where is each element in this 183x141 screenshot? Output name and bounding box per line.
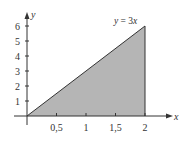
x-tick-label: 2 (143, 122, 148, 133)
x-axis-label: x (173, 111, 179, 122)
y-tick-label: 3 (15, 66, 20, 77)
y-tick-label: 2 (15, 81, 20, 92)
x-tick-label: 1 (84, 122, 89, 133)
y-tick-label: 6 (15, 21, 20, 32)
y-tick-label: 5 (15, 36, 20, 47)
curve-annotation: y = 3x (113, 16, 138, 26)
chart-container: 0,5 1 1,5 2 1 2 3 4 5 6 y x y = 3x (0, 0, 183, 141)
y-axis-label: y (30, 9, 36, 20)
x-axis-arrow-icon (166, 114, 173, 119)
x-tick-label: 0,5 (50, 122, 63, 133)
x-tick-label: 1,5 (109, 122, 122, 133)
chart-svg: 0,5 1 1,5 2 1 2 3 4 5 6 y x y = 3x (0, 0, 183, 141)
y-tick-label: 1 (15, 96, 20, 107)
y-axis-arrow-icon (25, 12, 30, 19)
y-tick-label: 4 (15, 51, 20, 62)
